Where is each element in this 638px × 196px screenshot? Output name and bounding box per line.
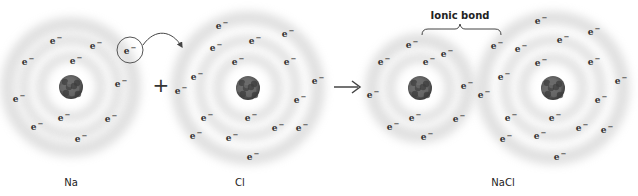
- nucleus-icon: [236, 76, 260, 100]
- transferring-electron: e−: [124, 44, 137, 56]
- electron-na: e−: [75, 132, 88, 144]
- atom-label-cl: Cl: [235, 177, 245, 188]
- electron-cl-ion: e−: [491, 39, 504, 51]
- electron-cl-ion: e−: [498, 70, 511, 82]
- electron-na-ion: e−: [378, 55, 391, 67]
- electron-cl: e−: [282, 27, 295, 39]
- electron-cl-ion: e−: [588, 55, 601, 67]
- product-label-nacl: NaCl: [491, 177, 514, 188]
- electron-na-ion: e−: [461, 79, 474, 91]
- electron-cl-ion: e−: [615, 74, 628, 86]
- electron-na: e−: [70, 54, 83, 66]
- electron-cl-ion: e−: [505, 111, 518, 123]
- electron-na: e−: [90, 39, 103, 51]
- electron-cl: e−: [294, 93, 307, 105]
- nucleus-icon: [408, 76, 432, 100]
- nucleus-icon: [541, 76, 565, 100]
- electron-na: e−: [105, 112, 118, 124]
- electron-na-ion: e−: [409, 111, 422, 123]
- electron-na: e−: [22, 55, 35, 67]
- electron-cl: e−: [226, 131, 239, 143]
- ionic-bond-brace-icon: [422, 24, 501, 35]
- electron-na: e−: [13, 92, 26, 104]
- atom-label-na: Na: [64, 177, 78, 188]
- ionic-bond-diagram: + Ionic bond Na Cl NaCl e−e−e−e−e−e−e−e−…: [0, 0, 638, 196]
- electron-na-ion: e−: [423, 55, 436, 67]
- electron-cl: e−: [284, 55, 297, 67]
- electron-cl-ion: e−: [500, 132, 513, 144]
- electron-cl: e−: [210, 41, 223, 53]
- electron-na: e−: [31, 120, 44, 132]
- electron-cl: e−: [190, 129, 203, 141]
- electron-cl-ion: e−: [557, 33, 570, 45]
- plus-operator: +: [153, 73, 170, 97]
- electron-cl-ion: e−: [576, 121, 589, 133]
- electron-na-ion: e−: [421, 130, 434, 142]
- electron-cl: e−: [296, 121, 309, 133]
- electron-cl-ion: e−: [554, 150, 567, 162]
- electron-cl-ion: e−: [535, 56, 548, 68]
- electron-cl-ion: e−: [595, 93, 608, 105]
- ionic-bond-label: Ionic bond: [431, 10, 490, 21]
- diagram-artwork: [0, 0, 638, 196]
- electron-cl: e−: [201, 111, 214, 123]
- electron-cl: e−: [175, 84, 188, 96]
- electron-cl: e−: [245, 111, 258, 123]
- electron-na: e−: [58, 111, 71, 123]
- electron-cl-ion: e−: [534, 129, 547, 141]
- electron-cl: e−: [232, 55, 245, 67]
- electron-na-ion: e−: [453, 112, 466, 124]
- electron-cl-ion: e−: [535, 14, 548, 26]
- electron-na-ion: e−: [367, 88, 380, 100]
- electron-cl: e−: [272, 121, 285, 133]
- electron-cl: e−: [249, 34, 262, 46]
- electron-cl: e−: [247, 150, 260, 162]
- electron-cl: e−: [216, 19, 229, 31]
- electron-na-ion: e−: [441, 47, 454, 59]
- electron-cl-ion: e−: [478, 88, 491, 100]
- electron-na-ion: e−: [387, 120, 400, 132]
- electron-cl-ion: e−: [515, 42, 528, 54]
- transfer-arrow-icon: [143, 33, 182, 47]
- electron-cl-ion: e−: [588, 25, 601, 37]
- electron-cl-ion: e−: [601, 123, 614, 135]
- electron-cl-ion: e−: [549, 111, 562, 123]
- electron-cl: e−: [312, 74, 325, 86]
- electron-na: e−: [50, 34, 63, 46]
- electron-cl: e−: [191, 70, 204, 82]
- nucleus-icon: [59, 75, 83, 99]
- electron-na-ion: e−: [406, 38, 419, 50]
- electron-na: e−: [115, 77, 128, 89]
